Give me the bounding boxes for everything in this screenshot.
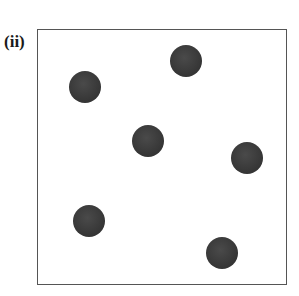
particle-circle (206, 237, 238, 269)
particle-circle (73, 205, 105, 237)
particle-circle (170, 45, 202, 77)
particle-circle (231, 142, 263, 174)
particle-circle (132, 125, 164, 157)
particle-circle (69, 71, 101, 103)
panel-label: (ii) (4, 32, 25, 52)
